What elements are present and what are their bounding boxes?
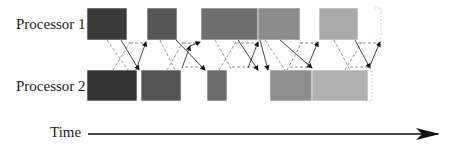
dashed-line xyxy=(345,42,362,70)
task-block xyxy=(201,8,258,40)
message-arrow xyxy=(182,46,190,68)
dashed-line xyxy=(219,42,236,70)
task-blocks xyxy=(87,8,381,101)
dashed-line xyxy=(215,40,232,70)
message-arrow xyxy=(176,40,205,70)
message-arrow xyxy=(355,40,370,68)
task-block xyxy=(258,8,300,40)
dashed-line xyxy=(160,40,175,70)
dotted-end-marker xyxy=(375,8,381,40)
message-arrow xyxy=(248,42,258,68)
dashed-line xyxy=(287,42,302,70)
message-arrow xyxy=(121,40,139,70)
message-arrow xyxy=(136,42,146,70)
message-arrow xyxy=(369,42,380,68)
task-block xyxy=(270,70,312,101)
task-block xyxy=(141,70,181,101)
dashed-line xyxy=(107,40,128,70)
task-block xyxy=(312,70,368,101)
task-block xyxy=(319,8,358,40)
schedule-diagram xyxy=(0,0,451,150)
message-arrow xyxy=(307,42,318,68)
task-block xyxy=(87,70,137,101)
dashed-line xyxy=(113,42,130,70)
message-arrows xyxy=(121,40,380,70)
task-block xyxy=(147,8,177,40)
dashed-communication-lines xyxy=(107,40,380,70)
message-arrow xyxy=(260,40,268,70)
task-block xyxy=(87,8,127,40)
task-block xyxy=(207,70,227,101)
dashed-line xyxy=(167,42,183,70)
message-arrow xyxy=(238,40,258,70)
message-arrow xyxy=(280,40,312,68)
dashed-line xyxy=(265,40,285,70)
